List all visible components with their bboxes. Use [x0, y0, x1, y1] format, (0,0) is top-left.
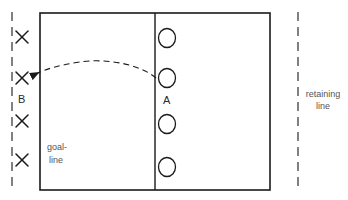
team-b-label: B [18, 94, 25, 105]
player-b-cross-icon [16, 115, 28, 127]
team-a-label: A [163, 95, 170, 106]
retaining-line-label-2: line [304, 102, 342, 111]
player-b-cross-icon [16, 72, 28, 84]
goal-line-label-2: line [45, 156, 67, 165]
player-b-cross-icon [16, 154, 28, 166]
player-a-circle-icon [159, 115, 176, 134]
goal-line-label-1: goal- [45, 143, 69, 152]
player-a-circle-icon [159, 29, 176, 48]
retaining-line-label-1: retaining [304, 90, 342, 99]
player-b-cross-icon [16, 31, 28, 43]
diagram-canvas [0, 0, 348, 200]
player-a-circle-icon [159, 69, 176, 88]
pass-arrow-icon [38, 61, 156, 78]
player-a-circle-icon [159, 158, 176, 177]
field-diagram: B A goal- line retaining line [0, 0, 348, 200]
